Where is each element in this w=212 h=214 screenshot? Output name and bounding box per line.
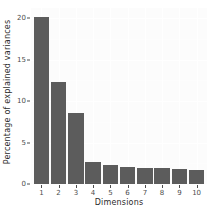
x-axis-tick-label: 1: [39, 189, 43, 197]
scree-plot: Percentage of explained variances Dimens…: [0, 0, 212, 214]
y-axis-tick-label: 5: [6, 139, 26, 147]
y-axis-tick-mark: [27, 101, 30, 102]
bar: [137, 168, 153, 184]
bar: [34, 17, 50, 184]
y-axis-tick-label: 15: [6, 56, 26, 64]
bar: [154, 168, 170, 184]
x-axis-tick-mark: [76, 185, 77, 188]
gridline-vertical-major: [197, 8, 198, 184]
x-axis-tick-label: 8: [160, 189, 164, 197]
y-axis-tick-label: 0: [6, 180, 26, 188]
bar: [103, 165, 119, 184]
x-axis-tick-label: 6: [125, 189, 129, 197]
bar: [68, 113, 84, 184]
x-axis-tick-mark: [41, 185, 42, 188]
y-axis-tick-label: 20: [6, 14, 26, 22]
gridline-vertical-major: [179, 8, 180, 184]
x-axis-tick-mark: [197, 185, 198, 188]
x-axis-tick-mark: [93, 185, 94, 188]
bar: [172, 169, 188, 184]
x-axis-tick-label: 10: [192, 189, 201, 197]
bar: [85, 162, 101, 184]
x-axis-tick-label: 7: [143, 189, 147, 197]
y-axis-title: Percentage of explained variances: [2, 0, 14, 184]
x-axis-tick-label: 9: [177, 189, 181, 197]
x-axis-tick-label: 5: [108, 189, 112, 197]
plot-panel: [31, 8, 207, 184]
x-axis-title: Dimensions: [30, 198, 208, 207]
y-axis-tick-mark: [27, 18, 30, 19]
y-axis-tick-label: 10: [6, 97, 26, 105]
gridline-vertical-major: [162, 8, 163, 184]
x-axis-tick-label: 4: [91, 189, 95, 197]
gridline-horizontal-major: [31, 60, 207, 61]
x-axis-tick-mark: [162, 185, 163, 188]
x-axis-tick-mark: [128, 185, 129, 188]
gridline-vertical-major: [128, 8, 129, 184]
gridline-horizontal-minor: [31, 39, 207, 40]
bar: [189, 170, 205, 184]
gridline-vertical-major: [93, 8, 94, 184]
gridline-vertical-major: [145, 8, 146, 184]
x-axis-tick-mark: [110, 185, 111, 188]
y-axis-tick-mark: [27, 59, 30, 60]
x-axis-tick-label: 2: [56, 189, 60, 197]
y-axis-tick-mark: [27, 184, 30, 185]
x-axis-tick-mark: [59, 185, 60, 188]
x-axis-tick-mark: [145, 185, 146, 188]
gridline-horizontal-major: [31, 18, 207, 19]
x-axis-tick-mark: [179, 185, 180, 188]
bar: [120, 167, 136, 184]
gridline-vertical-major: [110, 8, 111, 184]
y-axis-tick-mark: [27, 142, 30, 143]
bar: [51, 82, 67, 184]
x-axis-tick-label: 3: [74, 189, 78, 197]
